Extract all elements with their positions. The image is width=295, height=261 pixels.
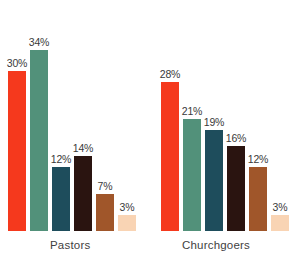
bar-value-label: 12% (248, 154, 269, 165)
bar-value-label: 21% (182, 106, 203, 117)
plot-area: 30% 34% 12% 14% 7% (0, 0, 295, 231)
bar-rect[interactable] (52, 167, 70, 231)
bar-slot[interactable]: 16% (227, 0, 245, 231)
bar-rect[interactable] (118, 215, 136, 231)
bar-slot[interactable]: 28% (161, 0, 179, 231)
bar-slot[interactable]: 21% (183, 0, 201, 231)
bar-slot[interactable]: 30% (8, 0, 26, 231)
bar-rect[interactable] (249, 167, 267, 231)
bar-value-label: 3% (273, 202, 288, 213)
bar-slot[interactable]: 34% (30, 0, 48, 231)
bar-rect[interactable] (74, 156, 92, 231)
bar-value-label: 19% (204, 117, 225, 128)
bar-slot[interactable]: 14% (74, 0, 92, 231)
bar-slot[interactable]: 19% (205, 0, 223, 231)
bar-value-label: 28% (160, 69, 181, 80)
bar-rect[interactable] (227, 146, 245, 231)
bar-rect[interactable] (30, 50, 48, 231)
category-label-pastors: Pastors (50, 239, 90, 251)
bar-slot[interactable]: 3% (118, 0, 136, 231)
bar-slot[interactable]: 7% (96, 0, 114, 231)
bar-chart: 30% 34% 12% 14% 7% (0, 0, 295, 261)
bar-value-label: 34% (29, 37, 50, 48)
bar-rect[interactable] (205, 130, 223, 231)
bar-rect[interactable] (96, 194, 114, 231)
bar-slot[interactable]: 12% (249, 0, 267, 231)
bar-value-label: 30% (7, 58, 28, 69)
bar-group-churchgoers-bars: 28% 21% 19% 16% 12% (161, 0, 289, 231)
bar-value-label: 12% (51, 154, 72, 165)
bar-value-label: 7% (98, 181, 113, 192)
bar-rect[interactable] (161, 82, 179, 231)
bar-rect[interactable] (183, 119, 201, 231)
bar-value-label: 16% (226, 133, 247, 144)
bar-value-label: 3% (120, 202, 135, 213)
bar-value-label: 14% (73, 143, 94, 154)
bar-rect[interactable] (271, 215, 289, 231)
bar-group-pastors-bars: 30% 34% 12% 14% 7% (8, 0, 136, 231)
bar-rect[interactable] (8, 71, 26, 231)
category-axis: Pastors Churchgoers (0, 231, 295, 261)
category-label-churchgoers: Churchgoers (182, 239, 250, 251)
bar-slot[interactable]: 12% (52, 0, 70, 231)
bar-slot[interactable]: 3% (271, 0, 289, 231)
